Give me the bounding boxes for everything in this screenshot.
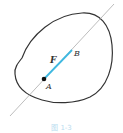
point-a-dot bbox=[42, 77, 47, 82]
force-label: F bbox=[49, 55, 57, 65]
point-b-label: B bbox=[73, 49, 80, 58]
figure-caption: 图 1-3 bbox=[0, 122, 123, 132]
point-a-label: A bbox=[45, 82, 52, 91]
force-vector bbox=[44, 50, 72, 79]
rigid-body-diagram: F B A bbox=[0, 0, 123, 133]
